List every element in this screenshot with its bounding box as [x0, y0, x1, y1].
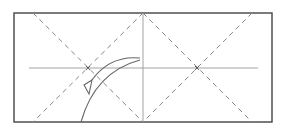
fold-arrowhead-icon [84, 80, 92, 94]
origami-diagram [0, 0, 286, 131]
fold-arrow-arc [92, 58, 140, 80]
